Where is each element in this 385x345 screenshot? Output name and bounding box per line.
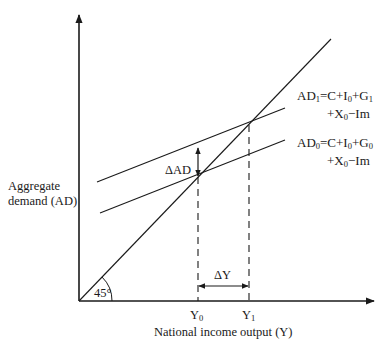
delta-ad-label: ΔAD: [165, 163, 191, 177]
keynesian-cross-diagram: [0, 0, 385, 345]
ad1-equation-line1: AD1=C+I0+G1: [297, 89, 373, 103]
ad0-equation-line2: +X0−Im: [327, 154, 370, 168]
line-45-degree: [79, 39, 331, 301]
y0-tick-label: Y0: [190, 308, 203, 322]
y1-tick-label: Y1: [242, 308, 255, 322]
delta-y-label: ΔY: [214, 268, 231, 282]
y-axis-label: Aggregate demand (AD): [8, 179, 88, 209]
x-axis-label: National income output (Y): [154, 325, 293, 339]
y-axis-label-line1: Aggregate: [8, 179, 60, 193]
ad1-equation-line2: +X0−Im: [327, 107, 370, 121]
ad0-equation-line1: AD0=C+I0+G0: [297, 136, 373, 150]
angle-45-label: 45°: [94, 286, 112, 300]
ad0-line: [100, 140, 285, 213]
y-axis-label-line2: demand (AD): [8, 194, 77, 208]
